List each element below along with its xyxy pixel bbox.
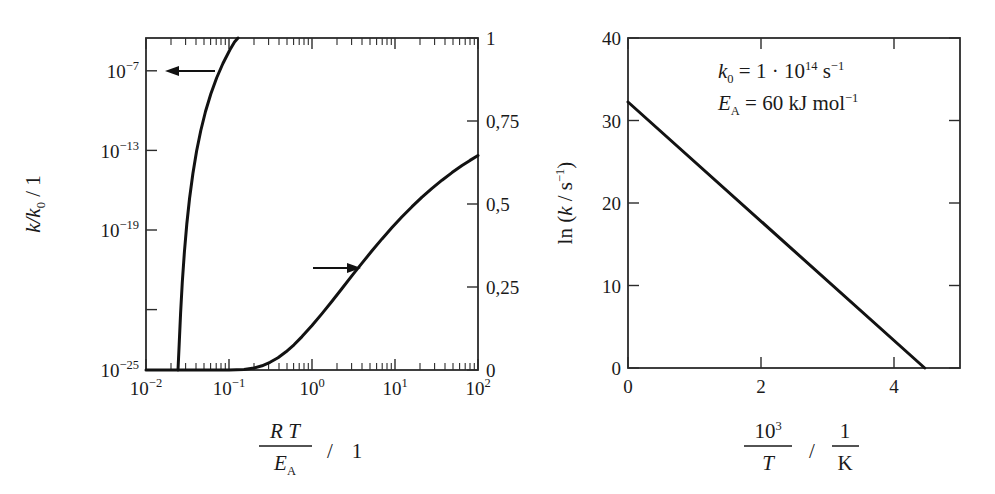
anno-0-base: 10 [784,59,805,83]
left-y-tick-base-3: 10 [100,360,119,381]
left-y-tick-labels: 10−7 10−13 10−19 10−25 [100,59,139,381]
svg-text:k/k0 / 1: k/k0 / 1 [21,175,48,233]
left-x-label-denominator: E [273,451,287,475]
svg-text:102: 102 [465,376,490,399]
right-panel-x-ticks [628,38,894,368]
right-x-label-numerator: 10 [754,419,775,443]
left-log-curve [178,38,238,370]
left-x-label-numerator: R T [269,419,301,443]
left-y-major-ticks [146,71,157,370]
left-x-tick-base-3: 10 [382,378,401,399]
svg-text:ln (k / s−1): ln (k / s−1) [553,162,577,245]
right-x-label-unit-numerator: 1 [840,419,851,443]
svg-text:10−7: 10−7 [107,59,139,82]
svg-text:103: 103 [754,419,781,443]
left-x-tick-base-0: 10 [130,378,149,399]
right-y-tick-label-3: 0,25 [486,277,519,298]
left-y-label-main: k/k [21,208,45,233]
svg-text:k0 = 1 · 1014 s−1: k0 = 1 · 1014 s−1 [718,59,844,86]
right-panel: 40 30 20 10 0 ln (k / s−1) 0 2 [553,28,960,475]
right-x-label-numerator-sup: 3 [775,419,781,433]
right-panel-y-ticks [628,38,960,368]
right-y-major-ticks [467,38,478,370]
right-panel-x-tick-1: 2 [756,376,766,397]
left-x-tick-exp-0: −2 [149,376,162,390]
anno-0-unit: s [823,59,831,83]
anno-1-eq: = [745,91,757,115]
left-linear-curve [146,156,478,371]
right-y-tick-label-1: 0,75 [486,111,519,132]
anno-1-unit-exp: −1 [845,91,858,105]
left-x-tick-base-4: 10 [465,378,484,399]
right-panel-x-tick-2: 4 [889,376,899,397]
anno-1-sub: A [731,104,740,118]
right-y-label-fn: ln [553,228,577,245]
anno-1-var: E [717,91,731,115]
right-y-label-arg-unit-sup: −1 [553,169,567,182]
left-x-minor-ticks [171,38,474,370]
anno-0-unit-exp: −1 [831,59,844,73]
right-panel-y-tick-labels: 40 30 20 10 0 [602,28,621,379]
right-panel-y-tick-3: 10 [602,276,621,297]
parameter-annotation: k0 = 1 · 1014 s−1 EA = 60 kJ mol−1 [717,59,858,118]
left-x-tick-exp-3: 1 [401,376,407,390]
left-x-label-unit: 1 [352,439,363,463]
left-x-label-slash: / [327,439,333,463]
svg-text:10−19: 10−19 [100,218,139,241]
anno-0-value: 1 [756,59,767,83]
right-plot-frame [628,38,960,368]
svg-text:10−13: 10−13 [100,139,139,162]
right-panel-y-tick-2: 20 [602,193,621,214]
left-x-tick-base-1: 10 [213,378,232,399]
left-x-axis-label: R T EA / 1 [259,419,362,478]
right-panel-y-tick-0: 40 [602,28,621,49]
left-y-tick-exp-0: −7 [126,59,139,73]
anno-0-dot: · [772,59,779,83]
left-y-tick-base-2: 10 [100,220,119,241]
left-y-label-unit: / 1 [21,175,45,197]
right-panel-x-axis-label: 103 T / 1 K [744,419,859,475]
left-y-tick-base-1: 10 [100,141,119,162]
left-x-label-denominator-sub: A [287,464,296,478]
right-x-label-slash: / [809,439,815,463]
svg-text:EA = 60 kJ mol−1: EA = 60 kJ mol−1 [717,91,858,118]
left-y-tick-exp-2: −19 [119,218,139,232]
left-x-tick-base-2: 10 [299,378,318,399]
left-x-tick-exp-2: 0 [318,376,324,390]
right-y-tick-labels: 1 0,75 0,5 0,25 0 [486,28,519,381]
anno-1-value: 60 [762,91,783,115]
left-y-tick-base-0: 10 [107,61,126,82]
right-y-tick-label-0: 1 [486,28,496,49]
left-x-tick-exp-1: −1 [232,376,245,390]
left-plot-frame [146,38,478,370]
left-y-tick-exp-3: −25 [119,358,139,372]
arrhenius-figure: 10−7 10−13 10−19 10−25 k/k0 / 1 [0,0,995,494]
left-y-tick-exp-1: −13 [119,139,139,153]
svg-text:101: 101 [382,376,407,399]
svg-text:EA: EA [273,451,296,478]
right-panel-x-tick-labels: 0 2 4 [623,376,899,397]
left-panel: 10−7 10−13 10−19 10−25 k/k0 / 1 [21,28,519,478]
right-x-label-unit-denominator: K [837,451,852,475]
svg-text:10−1: 10−1 [213,376,245,399]
left-pointing-arrow [165,66,215,76]
right-y-label-arg-unit: s [553,182,577,190]
left-x-tick-labels: 10−2 10−1 100 101 102 [130,376,491,399]
right-panel-y-tick-1: 30 [602,111,621,132]
right-panel-y-axis-label: ln (k / s−1) [553,162,577,245]
svg-text:10−2: 10−2 [130,376,162,399]
right-panel-y-tick-4: 0 [612,358,622,379]
anno-0-exp: 14 [805,59,818,73]
right-x-label-denominator: T [762,451,775,475]
right-panel-x-tick-0: 0 [623,376,633,397]
left-x-tick-exp-4: 2 [484,376,490,390]
right-y-tick-label-2: 0,5 [486,194,510,215]
left-y-axis-label: k/k0 / 1 [21,175,48,233]
arrhenius-line [628,102,925,368]
svg-text:100: 100 [299,376,324,399]
anno-1-unit: kJ mol [788,91,845,115]
left-x-major-ticks [146,38,478,370]
figure-canvas: 10−7 10−13 10−19 10−25 k/k0 / 1 [0,0,995,494]
anno-0-eq: = [739,59,751,83]
